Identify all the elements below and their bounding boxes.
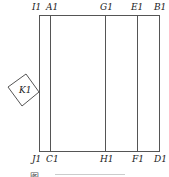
label-g1: G1 [100, 2, 113, 12]
outer-rectangle [40, 16, 160, 152]
label-k1: K1 [18, 85, 31, 95]
label-i1: I1 [31, 2, 41, 12]
label-a1: A1 [45, 2, 58, 12]
label-e1: E1 [130, 2, 143, 12]
diagram-canvas: I1 A1 G1 E1 B1 J1 C1 H1 F1 D1 K1 图 [0, 0, 169, 177]
figure-caption: 图 [30, 172, 39, 177]
label-b1: B1 [153, 2, 166, 12]
label-f1: F1 [131, 154, 144, 164]
label-d1: D1 [153, 154, 167, 164]
label-h1: H1 [99, 154, 114, 164]
label-j1: J1 [30, 154, 41, 164]
label-c1: C1 [46, 154, 59, 164]
